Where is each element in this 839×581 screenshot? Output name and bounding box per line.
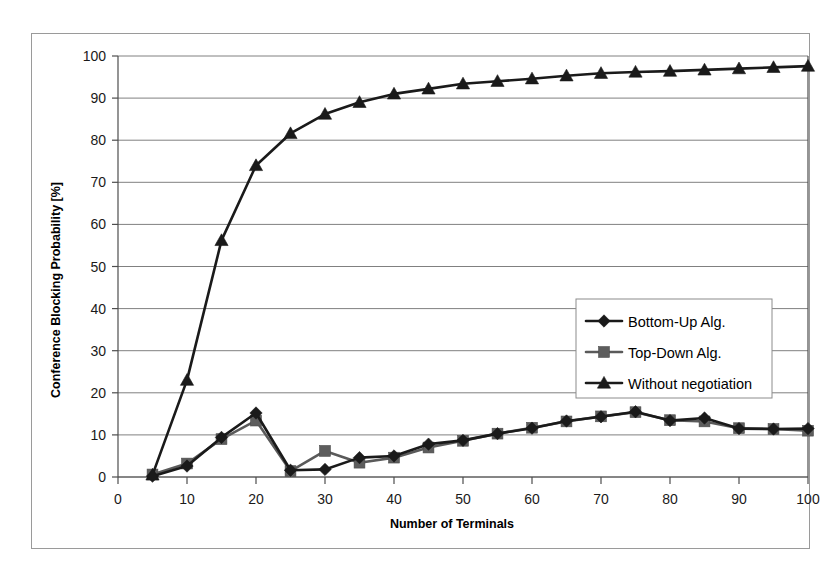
y-tick-label-90: 90 bbox=[90, 90, 106, 106]
x-tick-label-80: 80 bbox=[662, 491, 678, 507]
series-square bbox=[147, 407, 813, 480]
line-chart-canvas: Conference Blocking Probability [%] 0102… bbox=[0, 0, 839, 581]
x-tick-label-100: 100 bbox=[796, 491, 820, 507]
y-tick-label-30: 30 bbox=[90, 343, 106, 359]
legend-label-0: Bottom-Up Alg. bbox=[628, 314, 726, 330]
x-tick-label-10: 10 bbox=[179, 491, 195, 507]
y-axis-ticks-group: 0102030405060708090100 bbox=[83, 48, 118, 485]
legend-label-2: Without negotiation bbox=[628, 376, 752, 392]
x-tick-label-0: 0 bbox=[114, 491, 122, 507]
y-tick-label-50: 50 bbox=[90, 259, 106, 275]
y-axis-title: Conference Blocking Probability [%] bbox=[49, 182, 63, 398]
data-point-diamond-30 bbox=[319, 463, 331, 475]
chart-figure: Conference Blocking Probability [%] 0102… bbox=[0, 0, 839, 581]
x-tick-label-40: 40 bbox=[386, 491, 402, 507]
x-tick-label-70: 70 bbox=[593, 491, 609, 507]
y-tick-label-20: 20 bbox=[90, 385, 106, 401]
y-tick-label-60: 60 bbox=[90, 216, 106, 232]
data-point-triangle-10 bbox=[180, 374, 193, 386]
y-tick-label-40: 40 bbox=[90, 301, 106, 317]
x-tick-label-20: 20 bbox=[248, 491, 264, 507]
x-tick-label-50: 50 bbox=[455, 491, 471, 507]
x-tick-label-60: 60 bbox=[524, 491, 540, 507]
data-point-square-30 bbox=[320, 445, 331, 456]
x-axis-title: Number of Terminals bbox=[390, 517, 514, 531]
series-triangle bbox=[146, 60, 815, 481]
y-tick-label-70: 70 bbox=[90, 174, 106, 190]
x-axis-ticks-group: 0102030405060708090100 bbox=[114, 477, 820, 507]
data-point-triangle-15 bbox=[215, 234, 228, 246]
y-tick-label-80: 80 bbox=[90, 132, 106, 148]
series-diamond bbox=[146, 406, 814, 483]
data-point-triangle-25 bbox=[284, 127, 297, 139]
legend-label-1: Top-Down Alg. bbox=[628, 345, 722, 361]
square-marker-icon bbox=[599, 347, 610, 358]
y-tick-label-0: 0 bbox=[98, 469, 106, 485]
x-tick-label-90: 90 bbox=[731, 491, 747, 507]
y-tick-label-10: 10 bbox=[90, 427, 106, 443]
x-tick-label-30: 30 bbox=[317, 491, 333, 507]
y-tick-label-100: 100 bbox=[83, 48, 107, 64]
chart-legend: Bottom-Up Alg.Top-Down Alg.Without negot… bbox=[576, 299, 772, 398]
data-series-group bbox=[146, 60, 815, 483]
